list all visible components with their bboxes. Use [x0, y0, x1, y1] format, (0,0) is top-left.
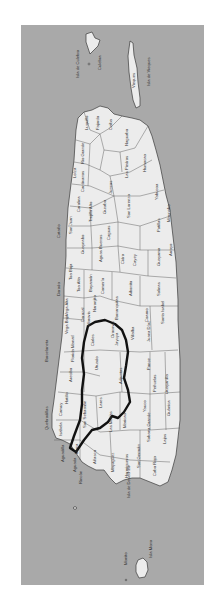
label-arroyo: Arroyo: [168, 243, 173, 256]
label-maunabo: Maunabo: [166, 204, 171, 222]
label-canovanas: Canóvanas: [80, 171, 85, 192]
label-monito: Monito: [123, 552, 128, 565]
label-caguas: Caguas: [106, 226, 111, 240]
label-aguada: Aguada: [72, 457, 77, 472]
label-barceloneta: Barceloneta: [44, 339, 49, 362]
mona-island[interactable]: [136, 558, 148, 578]
label-trujillo-alto: Trujillo Alto: [88, 201, 93, 222]
label-dorado: Dorado: [56, 282, 61, 296]
label-barranquitas: Barranquitas: [114, 296, 119, 320]
label-anasco: Añasco: [92, 449, 97, 464]
label-moca: Moca: [74, 443, 79, 454]
label-naguabo: Naguabo: [124, 128, 129, 146]
label-salinas: Salinas: [156, 282, 161, 296]
label-san-lorenzo: San Lorenzo: [126, 194, 131, 218]
label-adjuntas: Adjuntas: [118, 368, 123, 384]
label-las-marias: Las Marías: [108, 411, 113, 432]
label-comerio: Comerío: [100, 277, 105, 294]
label-yabucoa: Yabucoa: [154, 183, 159, 200]
label-isabela: Isabela: [58, 422, 63, 436]
label-coamo: Coamo: [144, 308, 149, 322]
label-ponce: Ponce: [146, 357, 151, 370]
label-camuy: Camuy: [58, 402, 63, 416]
label-aibonito: Aibonito: [128, 280, 133, 296]
label-cabo-rojo: Cabo Rojo: [152, 456, 157, 476]
label-villalba: Villalba: [130, 326, 135, 340]
label-culebra: Culebra: [97, 55, 102, 70]
label-jayuya: Jayuya: [114, 332, 119, 346]
label-naranjito: Naranjito: [92, 295, 97, 312]
label-penuelas: Peñuelas: [152, 375, 157, 392]
label-rio-grande: Rio Grande: [80, 142, 85, 164]
label-vega-baja: Vega Baja: [64, 314, 69, 334]
label-aguadilla: Aguadilla: [60, 444, 65, 462]
label-vega-alta: Vega Alta: [64, 298, 69, 316]
label-juncos: Juncos: [108, 181, 113, 194]
label-las-piedras: Las Piedras: [124, 156, 129, 178]
label-isla-de-culebra: Isla de Culebra: [75, 49, 80, 78]
label-fajardo: Fajardo: [95, 115, 100, 130]
label-florida: Florida: [70, 349, 75, 362]
label-carolina: Carolina: [76, 196, 81, 212]
label-sabana-grande: Sabana Grande: [146, 412, 151, 442]
label-ciales: Ciales: [90, 334, 95, 346]
label-cayey: Cayey: [132, 253, 137, 266]
label-mayaguez: Mayagüez: [110, 453, 115, 472]
label-gurabo: Gurabo: [102, 199, 107, 214]
monito-island: [125, 579, 127, 581]
puerto-rico-map: Isla de Culebra Culebra Vieques Isla de …: [0, 0, 219, 606]
label-hatillo: Hatillo: [64, 392, 69, 404]
label-patillas: Patillas: [156, 219, 161, 233]
label-ceiba: Ceiba: [108, 118, 113, 130]
label-santa-isabel: Santa Isabel: [160, 301, 165, 324]
label-toa-alta: Toa Alta: [76, 276, 81, 292]
label-corozal: Corozal: [80, 308, 85, 322]
label-manati: Manatí: [70, 334, 75, 348]
label-vieques: Vieques: [131, 73, 136, 88]
label-juana-diaz: Juana Díaz: [146, 321, 151, 342]
label-utuado: Utuado: [94, 356, 99, 370]
label-maricao: Maricao: [122, 412, 127, 428]
label-bayamon: Bayamón: [88, 274, 93, 292]
desecheo-island[interactable]: [73, 507, 76, 510]
label-lares: Lares: [98, 398, 103, 408]
label-guaynabo: Guaynabo: [80, 234, 85, 254]
label-guayama: Guayama: [156, 247, 161, 266]
label-isla-de-vieques: Isla de Vieques: [146, 57, 151, 86]
label-yauco: Yauco: [142, 400, 147, 412]
label-catano: Cataño: [56, 224, 61, 238]
label-san-sebastian: San Sebastián: [82, 400, 87, 428]
label-san-juan: San Juan: [68, 216, 73, 234]
label-san-german: San Germán: [136, 444, 141, 468]
label-humacao: Humacao: [142, 153, 147, 172]
label-loiza: Loíza: [72, 167, 77, 178]
label-cidra: Cidra: [120, 253, 125, 264]
label-guayanilla: Guayanilla: [164, 374, 169, 394]
label-isla-de-desecheo: Isla de Desecheo: [126, 465, 131, 498]
label-morovis: Morovis: [86, 311, 91, 326]
label-isla-mona: Isla Mona: [148, 539, 153, 558]
label-lajas: Lajas: [162, 434, 167, 444]
label-arecibo: Arecibo: [68, 367, 73, 382]
label-rincon: Rincón: [78, 470, 83, 484]
label-guanica: Guánica: [166, 400, 171, 416]
label-aguas-buenas: Aguas Buenas: [98, 235, 103, 262]
label-toa-baja: Toa Baja: [68, 263, 73, 280]
label-quebradillas: Quebradillas: [44, 406, 49, 430]
culebra-islet: [88, 63, 90, 65]
label-luquillo: Luquillo: [84, 115, 89, 130]
